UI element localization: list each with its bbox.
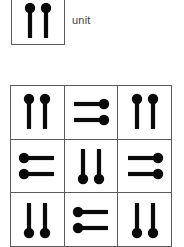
double-pin-glyph (123, 90, 167, 134)
double-pin-glyph (15, 198, 59, 242)
unit-label: unit (72, 14, 91, 27)
matrix-cell-r3c1 (11, 193, 65, 247)
matrix-cell-r1c3 (118, 86, 172, 140)
matrix-cell-r2c3 (118, 140, 172, 194)
double-pin-glyph (123, 198, 167, 242)
pattern-matrix (10, 85, 172, 247)
double-pin-glyph (69, 144, 113, 188)
matrix-cell-r1c1 (11, 86, 65, 140)
unit-reference-cell (11, 0, 65, 45)
double-pin-glyph (15, 90, 59, 134)
double-pin-glyph (123, 144, 167, 188)
unit-legend: unit (0, 0, 184, 50)
double-pin-glyph (15, 144, 59, 188)
double-pin-glyph (16, 0, 60, 43)
matrix-cell-r3c3 (118, 193, 172, 247)
matrix-cell-r2c2 (65, 140, 119, 194)
matrix-cell-r1c2 (65, 86, 119, 140)
matrix-cell-r2c1 (11, 140, 65, 194)
matrix-cell-r3c2 (65, 193, 119, 247)
double-pin-glyph (69, 90, 113, 134)
double-pin-glyph (69, 198, 113, 242)
